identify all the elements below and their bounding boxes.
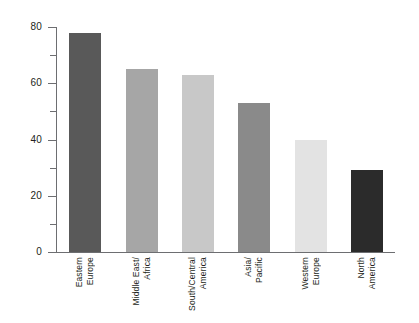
bar[interactable] [238, 103, 270, 252]
x-axis-label: NorthAmerica [356, 257, 378, 289]
plot-area [57, 27, 395, 252]
x-axis-label-line: South/Central [187, 257, 198, 311]
bar[interactable] [351, 170, 383, 252]
y-tick-label: 80 [8, 22, 42, 32]
x-axis-label: Middle East/Africa [131, 257, 153, 306]
x-axis-label-line: Western [300, 257, 311, 290]
x-axis-label-line: North [356, 257, 367, 279]
x-axis-line [56, 252, 395, 253]
y-tick-major [48, 196, 56, 197]
x-axis-label-line: Africa [142, 257, 153, 280]
x-axis-label-line: Pacific [254, 257, 265, 283]
bar[interactable] [182, 75, 214, 252]
y-tick-minor [50, 111, 56, 112]
y-tick-minor [50, 55, 56, 56]
x-axis-label-line: Europe [85, 257, 96, 285]
x-axis-label-line: America [198, 257, 209, 289]
x-axis-label-line: America [367, 257, 378, 289]
x-axis-label: South/CentralAmerica [187, 257, 209, 311]
y-tick-label: 20 [8, 191, 42, 201]
bar-chart: 020406080 EasternEuropeMiddle East/Afric… [0, 0, 419, 323]
x-axis-label-line: Europe [311, 257, 322, 285]
x-axis-label: EasternEurope [74, 257, 96, 287]
x-axis-label: WesternEurope [300, 257, 322, 290]
bar[interactable] [295, 140, 327, 253]
x-axis-label-line: Middle East/ [131, 257, 142, 306]
y-tick-minor [50, 224, 56, 225]
y-tick-label: 0 [8, 247, 42, 257]
y-tick-major [48, 27, 56, 28]
x-axis-label-line: Asia/ [243, 257, 254, 277]
x-axis-label: Asia/Pacific [243, 257, 265, 283]
y-tick-label: 60 [8, 78, 42, 88]
y-tick-major [48, 140, 56, 141]
bar[interactable] [126, 69, 158, 252]
x-axis-label-line: Eastern [74, 257, 85, 287]
y-tick-label: 40 [8, 135, 42, 145]
y-tick-major [48, 83, 56, 84]
y-tick-minor [50, 168, 56, 169]
bar[interactable] [69, 33, 101, 252]
y-tick-major [48, 252, 56, 253]
